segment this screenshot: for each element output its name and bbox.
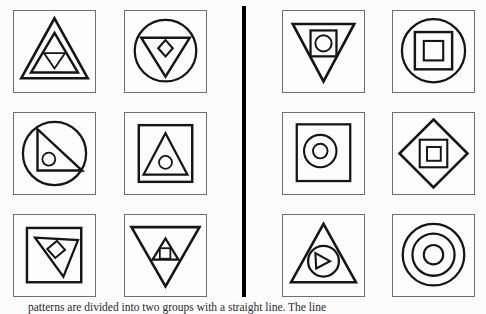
middle-square [420,140,448,168]
inner-square [427,147,441,161]
right-4-shapes-svg [393,113,474,194]
panel-left-1 [13,10,96,93]
panel-right-5 [282,214,365,297]
panel-left-4 [124,112,207,195]
panel-right-3 [282,112,365,195]
outer-circle [135,20,197,82]
figure-caption: patterns are divided into two groups wit… [28,301,478,314]
left-1-shapes-svg [14,11,95,92]
inner-circle [308,246,339,277]
group-divider [242,6,246,297]
inner-circle [313,144,328,159]
inner-square [424,41,443,60]
right-2-shapes-svg [393,11,474,92]
right-5-shapes-svg [283,215,364,296]
outer-down-triangle [131,227,199,286]
inner-circle [42,153,55,166]
outer-down-triangle [293,24,355,82]
outer-up-triangle [291,224,356,282]
inner-down-triangle [44,53,65,68]
left-pattern-group [13,10,207,297]
left-5-shapes-svg [14,215,95,296]
right-3-shapes-svg [283,113,364,194]
outer-circle [304,135,336,167]
panel-left-5 [13,214,96,297]
panel-left-3 [13,112,96,195]
inner-circle [159,156,172,169]
right-pattern-group [282,10,475,297]
middle-square [415,32,452,69]
outer-circle [402,19,465,82]
panel-right-6 [392,214,475,297]
inner-circle [424,245,443,264]
right-pointing-triangle [315,253,330,268]
left-3-shapes-svg [14,113,95,194]
right-6-shapes-svg [393,215,474,296]
panel-left-2 [124,10,207,93]
tilted-square [47,241,65,258]
outer-diamond [399,119,467,187]
inner-square [160,248,171,259]
panel-right-2 [392,10,475,93]
left-2-shapes-svg [125,11,206,92]
left-4-shapes-svg [125,113,206,194]
outer-circle [23,122,86,185]
inner-diamond [158,40,173,56]
panel-left-6 [124,214,207,297]
panel-right-4 [392,112,475,195]
panel-right-1 [282,10,365,93]
inner-circle [315,35,331,51]
right-1-shapes-svg [283,11,364,92]
left-6-shapes-svg [125,215,206,296]
middle-circle [412,234,454,276]
